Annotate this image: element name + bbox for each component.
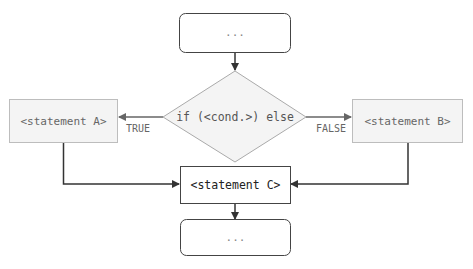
false-label: FALSE: [316, 123, 346, 134]
decision-label: if (<cond.>) else: [176, 110, 294, 124]
statement-a-box: <statement A>: [10, 100, 118, 143]
start-box-label: ...: [225, 26, 245, 39]
edge-a-to-c: [64, 143, 180, 184]
statement-c-label: <statement C>: [190, 178, 280, 192]
decision-diamond: if (<cond.>) else: [163, 71, 306, 162]
edge-b-to-c: [291, 143, 408, 184]
statement-b-label: <statement B>: [364, 115, 450, 128]
statement-b-box: <statement B>: [353, 100, 463, 143]
true-label: TRUE: [126, 123, 150, 134]
statement-c-box: <statement C>: [181, 167, 291, 204]
flowchart: ... if (<cond.>) else <statement A> <sta…: [0, 0, 473, 269]
statement-a-label: <statement A>: [20, 115, 106, 128]
end-box-label: ...: [226, 231, 246, 244]
start-box: ...: [180, 14, 291, 53]
end-box: ...: [181, 220, 291, 256]
